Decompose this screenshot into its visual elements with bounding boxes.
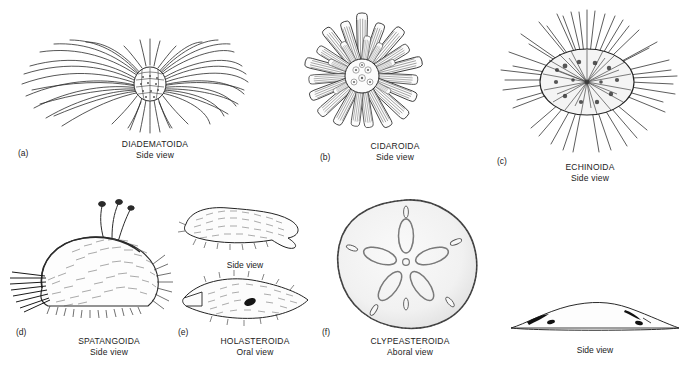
caption-name-c: ECHINOIDA (525, 162, 655, 173)
caption-name-f: CLYPEASTEROIDA (345, 336, 475, 347)
caption-view-d: Side view (44, 347, 174, 358)
holasteroida-oral-view (183, 270, 308, 326)
panel-letter-c: (c) (497, 156, 507, 166)
echinoida-drawing (487, 8, 687, 158)
caption-view-c: Side view (525, 173, 655, 184)
cidaroida-drawing (255, 12, 470, 140)
diadematoida-drawing (10, 18, 250, 140)
panel-echinoida (487, 8, 687, 158)
spatangoida-tube-feet (99, 200, 135, 242)
caption-name-b: CIDAROIDA (335, 141, 455, 152)
echinoida-test (540, 49, 634, 115)
caption-view-e: Oral view (190, 347, 320, 358)
panel-letter-a: (a) (18, 148, 28, 158)
caption-name-e: HOLASTEROIDA (190, 336, 320, 347)
caption-name-d: SPATANGOIDA (44, 336, 174, 347)
caption-clypeasteroida: CLYPEASTEROIDA Aboral view (345, 336, 475, 358)
holasteroida-inner-caption: Side view (185, 260, 305, 270)
caption-view-b: Side view (335, 152, 455, 163)
caption-cidaroida: CIDAROIDA Side view (335, 141, 455, 163)
caption-diadematoida: DIADEMATOIDA Side view (95, 139, 215, 161)
panel-letter-d: (d) (16, 327, 26, 337)
sand-dollar-side-drawing (505, 288, 685, 336)
caption-view-a: Side view (95, 150, 215, 161)
caption-spatangoida: SPATANGOIDA Side view (44, 336, 174, 358)
panel-clypeasteroida (318, 192, 503, 337)
panel-cidaroida (255, 12, 470, 140)
panel-diadematoida (10, 18, 250, 140)
caption-view-f: Aboral view (345, 347, 475, 358)
panel-letter-b: (b) (320, 152, 330, 162)
caption-echinoida: ECHINOIDA Side view (525, 162, 655, 184)
panel-clypeasteroida-side (505, 288, 685, 336)
panel-letter-e: (e) (178, 327, 188, 337)
caption-holasteroida: HOLASTEROIDA Oral view (190, 336, 320, 358)
echinoid-plate: (a) DIADEMATOIDA Side view (0, 0, 690, 388)
holasteroida-side-view (178, 208, 298, 250)
panel-spatangoida (8, 192, 188, 332)
caption-name-a: DIADEMATOIDA (95, 139, 215, 150)
spatangoida-ventral-fringe (47, 306, 141, 318)
panel-letter-f: (f) (322, 327, 330, 337)
spatangoida-test (41, 237, 158, 306)
diadematoida-test (134, 67, 166, 101)
clypeasteroida-side-caption: Side view (535, 345, 655, 355)
spatangoida-drawing (8, 192, 188, 332)
clypeasteroida-drawing (318, 192, 503, 337)
cidaroida-test (345, 59, 379, 93)
